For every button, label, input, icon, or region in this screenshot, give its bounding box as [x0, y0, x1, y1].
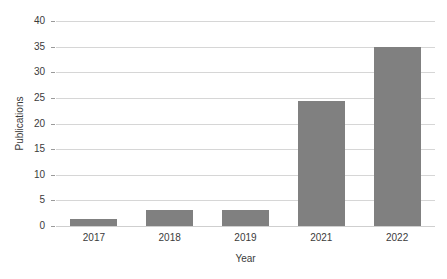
y-tick-mark-40: [51, 21, 55, 22]
y-tick-mark-10: [51, 175, 55, 176]
y-tick-label: 20: [34, 119, 45, 129]
bar: [146, 210, 193, 226]
y-tick-label: 35: [34, 42, 45, 52]
x-axis-tick-labels: 20172018201920212022: [56, 232, 435, 248]
y-tick-label: 40: [34, 16, 45, 26]
y-tick-mark-15: [51, 149, 55, 150]
bar: [222, 210, 269, 226]
x-axis-title: Year: [56, 253, 435, 264]
gridline-y-0: [56, 226, 435, 227]
gridline-y-40: [56, 21, 435, 22]
y-tick-label: 10: [34, 170, 45, 180]
y-tick-mark-30: [51, 72, 55, 73]
x-tick-label: 2017: [56, 232, 132, 244]
x-tick-label: 2021: [283, 232, 359, 244]
y-tick-mark-20: [51, 124, 55, 125]
x-tick-label: 2022: [359, 232, 435, 244]
x-tick-label: 2018: [132, 232, 208, 244]
bar: [298, 101, 345, 226]
y-tick-mark-0: [51, 226, 55, 227]
y-tick-label: 30: [34, 67, 45, 77]
bar: [70, 219, 117, 226]
y-tick-label: 15: [34, 144, 45, 154]
y-tick-mark-5: [51, 200, 55, 201]
y-tick-label: 25: [34, 93, 45, 103]
y-axis-title: Publications: [14, 21, 25, 226]
bar: [374, 47, 421, 226]
y-tick-mark-25: [51, 98, 55, 99]
plot-area: [56, 21, 435, 226]
x-tick-label: 2019: [208, 232, 284, 244]
y-tick-label: 0: [39, 221, 45, 231]
y-tick-label: 5: [39, 195, 45, 205]
bar-chart-figure: 0510152025303540 20172018201920212022 Ye…: [0, 0, 447, 279]
y-tick-mark-35: [51, 47, 55, 48]
